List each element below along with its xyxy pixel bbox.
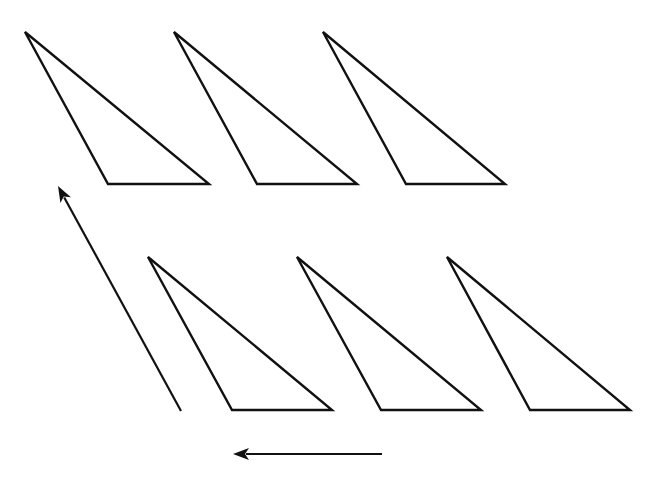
horizontal-arrow [233,448,382,460]
triangle-top-3 [323,32,505,184]
triangle-bottom-2 [297,257,481,410]
diagonal-arrow [58,186,181,411]
triangle-top-2 [174,32,357,184]
arrowhead-icon [58,186,71,203]
triangle-bottom-1 [148,257,332,410]
triangle-top-1 [25,32,209,184]
translation-diagram [0,0,660,488]
triangle-bottom-3 [447,257,630,410]
arrow-shaft [64,197,181,411]
triangle-group [25,32,630,410]
